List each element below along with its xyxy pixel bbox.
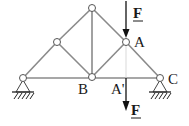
member-L-UL — [23, 42, 57, 78]
member-T-A — [92, 8, 126, 42]
joint-A — [123, 39, 130, 46]
member-UL-B — [57, 42, 92, 77]
joint-upper-left — [54, 39, 61, 46]
label-A: A — [134, 34, 145, 50]
label-A-prime: A' — [111, 81, 125, 97]
label-force-top: F — [133, 5, 142, 21]
arrowhead-down-icon — [123, 29, 130, 38]
arrowhead-down-icon — [123, 101, 130, 111]
support-left — [12, 80, 34, 99]
member-B-A — [92, 42, 126, 77]
joint-C — [157, 75, 164, 82]
label-force-bottom: F — [131, 102, 140, 118]
force-arrow-top — [123, 1, 130, 38]
joint-B — [89, 74, 96, 81]
joint-top — [89, 5, 96, 12]
label-C: C — [168, 71, 178, 87]
label-B: B — [78, 81, 88, 97]
member-UL-T — [57, 8, 92, 42]
joint-left — [20, 75, 27, 82]
truss-diagram: F A B A' C F — [0, 0, 189, 126]
